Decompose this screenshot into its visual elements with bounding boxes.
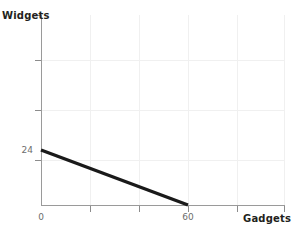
- y-axis-tick: [35, 60, 41, 61]
- x-axis-tick: [139, 206, 140, 212]
- x-tick-label-0: 0: [29, 212, 53, 222]
- x-axis-tick: [284, 206, 285, 212]
- gridline-vertical: [139, 15, 140, 205]
- budget-constraint-line: [41, 150, 188, 205]
- gridline-horizontal: [42, 110, 285, 111]
- gridline-vertical: [284, 15, 285, 205]
- x-tick-label-60: 60: [176, 212, 200, 222]
- x-axis-title: Gadgets: [243, 213, 291, 224]
- gridline-vertical: [237, 15, 238, 205]
- y-axis-title: Widgets: [2, 10, 50, 21]
- y-axis-tick: [35, 160, 41, 161]
- gridline-vertical: [90, 15, 91, 205]
- y-tick-label-24: 24: [11, 145, 33, 155]
- chart-screenshot: Widgets Gadgets 24 0 60: [0, 0, 293, 236]
- gridline-vertical: [188, 15, 189, 205]
- y-axis-line: [41, 15, 42, 206]
- y-axis-tick: [35, 110, 41, 111]
- gridline-horizontal: [42, 160, 285, 161]
- x-axis-tick: [237, 206, 238, 212]
- x-axis-line: [41, 205, 285, 206]
- x-axis-tick: [90, 206, 91, 212]
- data-line-svg: [0, 0, 293, 236]
- gridline-horizontal: [42, 60, 285, 61]
